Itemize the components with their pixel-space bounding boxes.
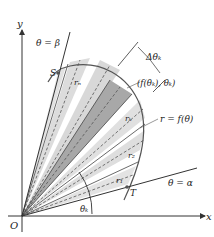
polar-area-diagram: y x O θ = β θ = α S T rₙ rₖ r₂ r₁ Δθₖ (f…: [0, 0, 214, 237]
origin-label: O: [10, 220, 18, 231]
x-axis-label: x: [206, 211, 212, 222]
point-k-label: (f(θₖ), θₖ): [137, 78, 175, 88]
curve-label: r = f(θ): [160, 114, 194, 124]
theta-k-label: θₖ: [80, 204, 88, 214]
point-T: [125, 185, 129, 189]
alpha-ray-label: θ = α: [168, 178, 193, 188]
diagram-svg: y x O θ = β θ = α S T rₙ rₖ r₂ r₁ Δθₖ (f…: [0, 0, 214, 237]
r-1-label: r₁: [116, 176, 123, 185]
beta-ray-label: θ = β: [36, 38, 60, 48]
point-S: [56, 71, 60, 75]
r-n-label: rₙ: [74, 78, 81, 87]
r-2-label: r₂: [128, 151, 135, 160]
point-S-label: S: [50, 68, 56, 78]
r-k-label: rₖ: [125, 114, 132, 123]
y-axis-label: y: [16, 18, 23, 29]
delta-theta-label: Δθₖ: [145, 52, 162, 62]
point-T-label: T: [130, 188, 137, 198]
